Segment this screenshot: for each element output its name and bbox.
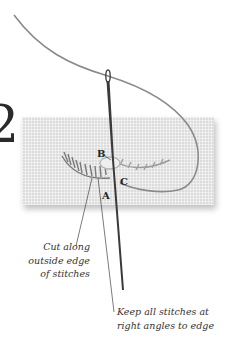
caption-line: Cut along <box>18 240 90 254</box>
caption-cut-along-edge: Cut along outside edge of stitches <box>18 240 90 281</box>
buttonhole-stitches <box>62 152 170 178</box>
caption-line: right angles to edge <box>117 319 227 333</box>
stitch-illustration: 2 B C A Cut along outside edge of stitch… <box>0 0 229 347</box>
caption-line: outside edge <box>18 254 90 268</box>
leader-line-cut <box>76 178 92 246</box>
point-label-b: B <box>97 148 105 159</box>
caption-line: of stitches <box>18 267 90 281</box>
caption-line: Keep all stitches at <box>117 305 227 319</box>
point-label-c: C <box>120 176 128 187</box>
point-label-a: A <box>102 190 110 201</box>
caption-keep-right-angles: Keep all stitches at right angles to edg… <box>117 305 227 332</box>
needle-and-thread-drawing <box>0 0 229 347</box>
